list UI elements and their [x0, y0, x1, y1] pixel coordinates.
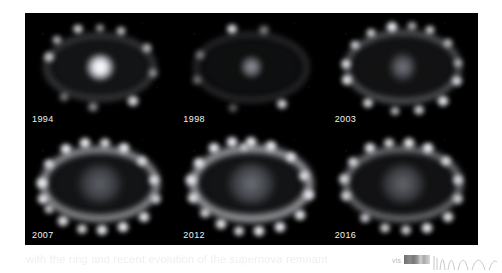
- ring-hotspot: [126, 95, 140, 107]
- ring-hotspot: [184, 174, 198, 187]
- ring-hotspot: [87, 102, 99, 112]
- ring-halo-glow: [193, 31, 310, 103]
- panel-2016[interactable]: 2016: [328, 130, 478, 246]
- equatorial-ring: [344, 30, 461, 104]
- ring-hotspot: [137, 211, 151, 223]
- ring-halo-glow: [42, 148, 159, 220]
- ring-hotspot: [43, 204, 55, 215]
- ring-hotspot: [195, 50, 206, 60]
- ring-hotspot: [98, 138, 111, 149]
- starfield-noise: [176, 130, 326, 246]
- panel-2003[interactable]: 2003: [328, 13, 478, 129]
- ring-hotspot: [78, 137, 92, 149]
- ring-hotspot: [117, 142, 131, 154]
- ring-hotspot: [36, 193, 50, 205]
- ring-hotspot: [258, 25, 270, 35]
- ring-hotspot: [363, 142, 377, 154]
- panel-1998[interactable]: 1998: [176, 13, 326, 129]
- ring-hotspot: [453, 58, 464, 68]
- ring-hotspot: [51, 35, 63, 45]
- ring-hotspot: [228, 103, 239, 112]
- ring-hotspot: [244, 136, 258, 148]
- panel-year-label: 2012: [183, 231, 205, 240]
- ring-hotspot: [207, 142, 221, 154]
- ring-hotspot: [383, 138, 396, 149]
- ring-hotspot: [43, 159, 56, 170]
- ring-hotspot: [452, 174, 465, 186]
- starfield-noise: [176, 13, 326, 129]
- ring-hotspot: [214, 218, 228, 230]
- ring-halo-glow: [193, 148, 310, 220]
- ring-hotspot: [442, 38, 454, 48]
- ring-hotspot: [76, 223, 89, 234]
- ring-hotspot: [450, 76, 463, 87]
- ring-hotspot: [136, 155, 149, 166]
- panel-2007[interactable]: 2007: [25, 130, 175, 246]
- equatorial-ring: [343, 146, 463, 222]
- ring-hotspot: [440, 155, 453, 166]
- starfield-noise: [328, 130, 478, 246]
- ring-hotspot: [225, 24, 238, 35]
- ring-hotspot: [349, 40, 361, 50]
- ring-hotspot: [115, 26, 127, 36]
- ring-hotspot: [192, 157, 206, 169]
- panel-year-label: 1994: [32, 115, 54, 124]
- ring-hotspot: [365, 28, 377, 38]
- panel-year-label: 1998: [183, 115, 205, 124]
- ring-hotspot: [225, 136, 239, 148]
- ring-hotspot: [35, 176, 49, 189]
- ring-hotspot: [56, 215, 70, 227]
- ring-hotspot: [341, 74, 354, 86]
- ring-hotspot: [378, 222, 391, 233]
- ring-hotspot: [302, 189, 316, 201]
- central-ejecta: [227, 163, 275, 205]
- ring-hotspot: [95, 224, 109, 236]
- ring-hotspot: [59, 93, 70, 102]
- equatorial-ring: [190, 145, 313, 224]
- page-bottom-area: [0, 246, 502, 273]
- ring-hotspot: [402, 137, 416, 149]
- ring-hotspot: [436, 95, 450, 107]
- ring-hotspot: [421, 142, 435, 154]
- ring-hotspot: [399, 224, 412, 235]
- ring-hotspot: [340, 58, 352, 69]
- ring-hotspot: [452, 193, 465, 204]
- ring-halo-glow: [344, 31, 461, 103]
- starfield-noise: [25, 13, 175, 129]
- ring-hotspot: [273, 221, 287, 233]
- central-ejecta: [390, 52, 416, 82]
- central-source: [241, 56, 262, 79]
- ring-hotspot: [252, 225, 266, 237]
- ring-hotspot: [198, 207, 211, 218]
- supernova-panel-grid: 1994 1998 2003: [25, 13, 478, 245]
- ring-hotspot: [293, 209, 307, 221]
- ring-hotspot: [43, 51, 56, 62]
- central-source: [86, 54, 115, 81]
- ring-hotspot: [347, 156, 360, 167]
- central-ejecta: [380, 164, 425, 203]
- ring-hotspot: [238, 142, 249, 151]
- ring-halo-glow: [42, 31, 159, 103]
- ring-hotspot: [441, 211, 455, 223]
- ring-hotspot: [95, 24, 106, 33]
- ring-hotspot: [338, 173, 351, 185]
- ring-hotspot: [362, 98, 375, 109]
- ring-hotspot: [389, 106, 401, 116]
- ring-hotspot: [359, 213, 372, 224]
- ring-hotspot: [264, 140, 278, 152]
- ring-hotspot: [284, 152, 297, 163]
- ring-hotspot: [413, 105, 426, 116]
- ring-hotspot: [339, 190, 352, 202]
- ring-hotspot: [406, 21, 418, 31]
- ring-hotspot: [116, 221, 130, 233]
- ring-hotspot: [186, 192, 200, 204]
- panel-year-label: 2016: [335, 231, 357, 240]
- panel-year-label: 2007: [32, 231, 54, 240]
- starfield-noise: [25, 130, 175, 246]
- ring-hotspot: [149, 193, 162, 204]
- ring-hotspot: [385, 21, 399, 33]
- panel-2012[interactable]: 2012: [176, 130, 326, 246]
- panel-1994[interactable]: 1994: [25, 13, 175, 129]
- ring-hotspot: [71, 24, 84, 34]
- ring-hotspot: [141, 42, 153, 53]
